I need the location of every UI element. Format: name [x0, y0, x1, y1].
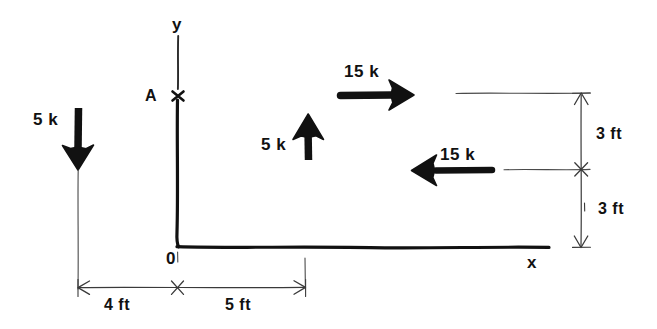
dimension-line-horizontal — [78, 280, 306, 297]
dimension-label-5ft: 5 ft — [225, 297, 251, 313]
force-label-15k-left: 15 k — [440, 146, 475, 163]
point-a-label: A — [145, 88, 157, 104]
extension-line-upper-horizontal — [456, 93, 590, 94]
member-vertical-leg — [177, 100, 179, 247]
dimension-label-4ft: 4 ft — [104, 297, 130, 313]
structural-member — [177, 100, 549, 248]
member-horizontal-leg — [177, 247, 549, 248]
force-label-5k-down: 5 k — [33, 111, 58, 128]
force-arrow-15k-right — [341, 80, 415, 110]
origin-label: 0 — [166, 250, 176, 267]
force-label-5k-up: 5 k — [261, 136, 286, 153]
extension-lines — [78, 93, 590, 289]
force-arrow-5k-up — [293, 114, 324, 160]
force-label-15k-right: 15 k — [344, 63, 379, 80]
diagram-canvas — [0, 0, 657, 329]
free-body-diagram: y x 0 A 5 k 5 k 15 k 15 k 4 ft 5 ft 3 ft… — [0, 0, 657, 329]
dimension-label-3ft-lower: 3 ft — [598, 201, 624, 217]
force-arrow-5k-down — [63, 108, 94, 170]
x-axis-label: x — [527, 254, 537, 271]
y-axis-label: y — [172, 16, 182, 33]
dimension-label-3ft-upper: 3 ft — [596, 126, 622, 142]
